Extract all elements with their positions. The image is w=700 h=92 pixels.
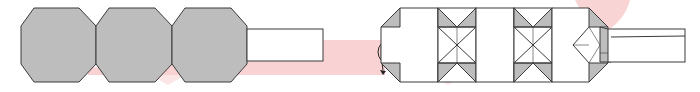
right-model bbox=[381, 8, 685, 82]
octagon-2 bbox=[96, 8, 172, 82]
octagon-1 bbox=[21, 8, 96, 82]
x-crease-1 bbox=[438, 8, 476, 82]
right-strip bbox=[608, 29, 685, 62]
diagram-canvas bbox=[0, 0, 700, 92]
x-crease-2 bbox=[514, 8, 552, 82]
origami-diagram bbox=[0, 0, 700, 92]
octagon-3 bbox=[172, 8, 247, 82]
left-strip bbox=[247, 29, 323, 61]
panel-2 bbox=[476, 8, 514, 82]
